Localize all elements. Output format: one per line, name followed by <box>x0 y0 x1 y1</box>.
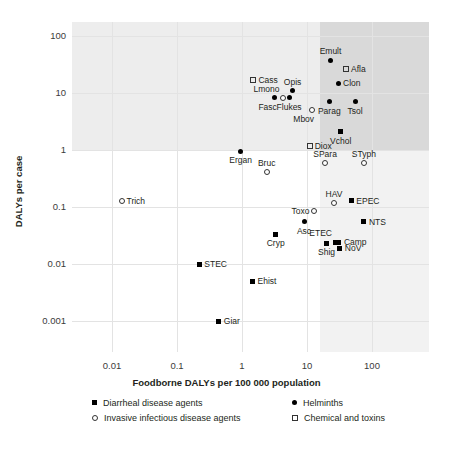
x-tick-label: 0.01 <box>90 360 134 371</box>
plot-area: EmultAflaCassClonOpisLmonoFascFlukesPara… <box>72 22 429 352</box>
legend-marker-icon <box>292 415 298 421</box>
y-tick-label: 0.1 <box>22 201 66 212</box>
data-point-marker[interactable] <box>264 169 270 175</box>
y-tick-label: 0.01 <box>22 258 66 269</box>
data-point-marker[interactable] <box>336 240 341 245</box>
data-point-label: Bruc <box>258 159 275 168</box>
data-point-label: Ergan <box>229 156 252 165</box>
data-point-label: Opis <box>284 78 301 87</box>
legend-marker-icon <box>92 400 97 405</box>
quadrant-shading-top-left <box>72 22 320 150</box>
data-point-marker[interactable] <box>324 241 329 246</box>
data-point-label: Vchol <box>330 137 351 146</box>
data-point-marker[interactable] <box>338 129 343 134</box>
data-point-marker[interactable] <box>216 319 221 324</box>
data-point-marker[interactable] <box>119 198 125 204</box>
gridline-vertical <box>307 22 308 352</box>
legend-row: Invasive infectious disease agentsChemic… <box>92 410 422 425</box>
data-point-marker[interactable] <box>331 200 337 206</box>
gridline-vertical <box>177 22 178 352</box>
y-tick-label: 1 <box>22 144 66 155</box>
data-point-marker[interactable] <box>238 149 243 154</box>
data-point-label: HAV <box>326 190 343 199</box>
gridline-horizontal <box>72 36 429 37</box>
data-point-label: Emult <box>320 47 342 56</box>
data-point-label: Toxo <box>291 207 309 216</box>
data-point-marker[interactable] <box>287 95 292 100</box>
data-point-label: STyph <box>352 150 376 159</box>
legend-marker-icon <box>92 415 98 421</box>
data-point-label: Cryp <box>267 239 285 248</box>
legend-label: Helminths <box>303 398 343 408</box>
data-point-label: Giar <box>224 317 240 326</box>
data-point-label: NoV <box>345 244 362 253</box>
legend-item[interactable]: Diarrheal disease agents <box>92 398 292 408</box>
x-tick-label: 10 <box>285 360 329 371</box>
data-point-label: Tsol <box>348 107 363 116</box>
data-point-label: NTS <box>369 218 386 227</box>
data-point-label: Shig <box>318 248 335 257</box>
y-tick-label: 0.001 <box>22 315 66 326</box>
data-point-marker[interactable] <box>302 219 307 224</box>
gridline-horizontal <box>72 207 429 208</box>
chart-legend: Diarrheal disease agentsHelminthsInvasiv… <box>92 395 422 425</box>
quadrant-shading-top-right <box>320 22 429 150</box>
gridline-vertical <box>112 22 113 352</box>
y-tick-label: 10 <box>22 87 66 98</box>
x-tick-label: 0.1 <box>155 360 199 371</box>
gridline-horizontal <box>72 321 429 322</box>
gridline-horizontal <box>72 264 429 265</box>
data-point-marker[interactable] <box>328 58 333 63</box>
data-point-label: SPara <box>313 150 337 159</box>
data-point-marker[interactable] <box>197 262 202 267</box>
data-point-label: Flukes <box>277 103 302 112</box>
data-point-marker[interactable] <box>250 77 256 83</box>
y-axis-title: DALYs per case <box>13 122 24 262</box>
data-point-marker[interactable] <box>361 160 367 166</box>
data-point-marker[interactable] <box>322 160 328 166</box>
x-tick-label: 1 <box>220 360 264 371</box>
data-point-marker[interactable] <box>353 99 358 104</box>
data-point-label: STEC <box>204 260 227 269</box>
data-point-marker[interactable] <box>343 66 349 72</box>
gridline-vertical <box>242 22 243 352</box>
legend-label: Invasive infectious disease agents <box>104 413 241 423</box>
gridline-horizontal <box>72 93 429 94</box>
x-axis-title: Foodborne DALYs per 100 000 population <box>0 377 453 388</box>
data-point-marker[interactable] <box>307 143 313 149</box>
legend-row: Diarrheal disease agentsHelminths <box>92 395 422 410</box>
data-point-marker[interactable] <box>337 246 342 251</box>
x-tick-label: 100 <box>350 360 394 371</box>
scatter-chart-figure: DALYs per case 1001010.10.010.001 0.010.… <box>0 0 453 453</box>
data-point-marker[interactable] <box>273 232 278 237</box>
data-point-label: Ehist <box>258 277 277 286</box>
data-point-marker[interactable] <box>280 95 286 101</box>
data-point-marker[interactable] <box>336 81 341 86</box>
legend-label: Chemical and toxins <box>304 413 385 423</box>
y-tick-label: 100 <box>22 30 66 41</box>
legend-marker-icon <box>292 400 297 405</box>
legend-item[interactable]: Invasive infectious disease agents <box>92 413 292 423</box>
data-point-marker[interactable] <box>311 208 317 214</box>
data-point-marker[interactable] <box>349 198 354 203</box>
legend-item[interactable]: Helminths <box>292 398 422 408</box>
data-point-marker[interactable] <box>361 219 366 224</box>
data-point-label: Parag <box>318 107 341 116</box>
data-point-label: ETEC <box>309 229 332 238</box>
data-point-label: Afla <box>351 65 366 74</box>
data-point-label: Trich <box>127 197 146 206</box>
data-point-marker[interactable] <box>250 279 255 284</box>
legend-label: Diarrheal disease agents <box>103 398 203 408</box>
data-point-label: EPEC <box>356 197 379 206</box>
data-point-label: Clon <box>343 79 360 88</box>
data-point-label: Fasc <box>258 103 276 112</box>
legend-item[interactable]: Chemical and toxins <box>292 413 422 423</box>
data-point-label: Lmono <box>254 85 280 94</box>
gridline-vertical <box>372 22 373 352</box>
data-point-label: Mbov <box>293 115 314 124</box>
